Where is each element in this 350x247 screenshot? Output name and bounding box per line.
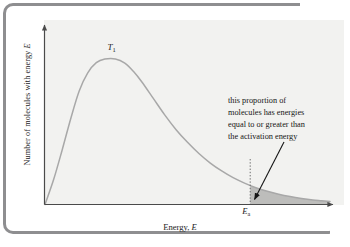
y-axis-title-symbol: E <box>23 43 32 48</box>
annotation-line-1: this proportion of <box>228 95 340 107</box>
y-axis-title-text: Number of molecules with energy <box>23 49 32 166</box>
annotation-line-3: equal to or greater than <box>228 119 340 131</box>
ea-label-subscript: a <box>247 210 250 217</box>
annotation-text-block: this proportion of molecules has energie… <box>228 95 340 143</box>
annotation-line-4: the activation energy <box>228 131 340 143</box>
figure-container: Number of molecules with energy E Energy… <box>0 0 350 247</box>
x-axis-title-text: Energy, <box>163 222 191 232</box>
annotation-pointer-arrow <box>255 142 285 200</box>
peak-label-subscript: 1 <box>112 46 115 53</box>
x-axis-title: Energy, E <box>120 222 240 232</box>
y-axis-title: Number of molecules with energy E <box>23 10 32 200</box>
annotation-line-2: molecules has energies <box>228 107 340 119</box>
activation-energy-shaded-area <box>250 185 330 204</box>
peak-temperature-label: T1 <box>107 42 115 53</box>
x-axis-title-symbol: E <box>192 222 197 232</box>
activation-energy-label: Ea <box>242 206 250 217</box>
